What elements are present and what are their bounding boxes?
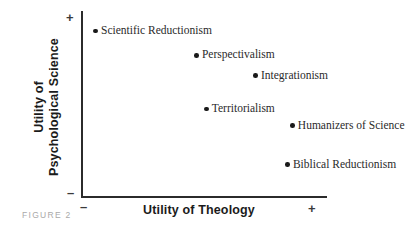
figure-scatter-plot: + – – + Utility of Theology Utility of P… <box>0 0 409 236</box>
data-point-label: Humanizers of Science <box>298 120 405 132</box>
data-point-marker <box>285 162 290 167</box>
x-axis-positive-sign: + <box>308 202 316 215</box>
x-axis-title: Utility of Theology <box>143 203 255 217</box>
y-axis-title: Utility of Psychological Science <box>32 17 62 197</box>
data-point: Biblical Reductionism <box>285 159 396 171</box>
data-point-label: Biblical Reductionism <box>293 159 396 171</box>
y-axis-line <box>81 11 83 198</box>
data-point-marker <box>253 73 258 78</box>
data-point-label: Territorialism <box>212 103 275 115</box>
data-point-marker <box>194 53 199 58</box>
y-axis-negative-sign: – <box>67 186 74 199</box>
x-axis-line <box>81 196 327 198</box>
data-point-label: Perspectivalism <box>202 49 275 61</box>
y-axis-title-line-2: Psychological Science <box>47 17 62 197</box>
y-axis-title-line-1: Utility of <box>32 17 47 197</box>
data-point: Humanizers of Science <box>290 120 404 132</box>
data-point: Perspectivalism <box>194 49 274 61</box>
data-point-marker <box>93 29 98 34</box>
data-point-marker <box>204 107 209 112</box>
data-point: Scientific Reductionism <box>93 25 211 37</box>
data-point-label: Scientific Reductionism <box>101 25 212 37</box>
data-point: Integrationism <box>253 70 328 82</box>
data-point: Territorialism <box>204 103 275 115</box>
data-point-label: Integrationism <box>261 70 328 82</box>
data-point-marker <box>290 123 295 128</box>
x-axis-negative-sign: – <box>80 200 87 213</box>
y-axis-positive-sign: + <box>66 11 74 24</box>
figure-caption: FIGURE 2 <box>22 210 72 220</box>
